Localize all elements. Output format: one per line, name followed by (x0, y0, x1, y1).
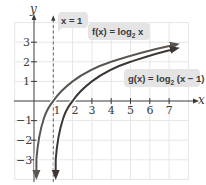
y-tick-1: 1 (23, 75, 30, 88)
y-tick-neg2: −2 (16, 134, 32, 147)
logarithm-graph: x y 1 2 3 4 5 6 7 3 2 1 −1 −2 −3 x = 1 (0, 0, 206, 185)
x-tick-7: 7 (166, 104, 173, 117)
y-tick-neg1: −1 (16, 114, 32, 127)
y-tick-2: 2 (23, 56, 30, 69)
x-tick-1: 1 (54, 104, 61, 117)
f-label: f(x) = log2 x (92, 26, 144, 39)
y-tick-neg3: −3 (16, 154, 32, 167)
x-tick-6: 6 (146, 104, 153, 117)
x-tick-4: 4 (108, 104, 115, 117)
x-axis-label: x (198, 93, 205, 107)
asymptote-label: x = 1 (61, 15, 83, 26)
g-label-callout: g(x) = log2 (x − 1) (124, 69, 205, 87)
y-tick-3: 3 (23, 36, 30, 49)
x-tick-5: 5 (127, 104, 134, 117)
x-tick-2: 2 (72, 104, 79, 117)
y-axis-label: y (29, 2, 37, 16)
g-label: g(x) = log2 (x − 1) (128, 73, 205, 86)
x-tick-3: 3 (89, 104, 96, 117)
f-label-callout: f(x) = log2 x (88, 23, 150, 40)
